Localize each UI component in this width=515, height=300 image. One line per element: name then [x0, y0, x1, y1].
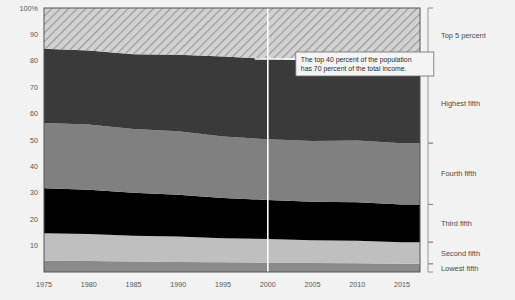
x-tick-label: 1990: [170, 280, 186, 289]
x-tick-label: 1980: [81, 280, 97, 289]
x-tick-label: 2005: [305, 280, 321, 289]
legend-label-lowest-fifth: Lowest fifth: [441, 264, 478, 273]
chart-canvas: 102030405060708090100% 19751980198519901…: [0, 0, 515, 300]
legend-label-second-fifth: Second fifth: [441, 249, 480, 258]
income-distribution-area-chart: 102030405060708090100% 19751980198519901…: [0, 0, 515, 300]
y-tick-label: 60: [30, 109, 38, 118]
annotation-callout: The top 40 percent of the populationhas …: [296, 52, 434, 76]
y-tick-label: 30: [30, 188, 38, 197]
callout-line-1: The top 40 percent of the population: [301, 56, 412, 64]
x-axis-tick-labels: 197519801985199019952000200520102015: [36, 280, 410, 289]
x-tick-label: 2010: [349, 280, 365, 289]
y-tick-label: 40: [30, 162, 38, 171]
y-tick-label: 90: [30, 30, 38, 39]
y-tick-label: 100%: [20, 4, 39, 13]
legend-label-third-fifth: Third fifth: [441, 219, 472, 228]
legend-label-highest-fifth: Highest fifth: [441, 99, 480, 108]
legend-label-fourth-fifth: Fourth fifth: [441, 169, 476, 178]
x-tick-label: 1995: [215, 280, 231, 289]
y-tick-label: 70: [30, 83, 38, 92]
y-tick-label: 50: [30, 136, 38, 145]
stacked-area-bands: [44, 8, 420, 272]
x-tick-label: 1975: [36, 280, 52, 289]
legend-label-top-5-percent: Top 5 percent: [441, 31, 486, 40]
callout-line-2: has 70 percent of the total income.: [301, 65, 407, 73]
y-tick-label: 20: [30, 215, 38, 224]
y-tick-label: 10: [30, 241, 38, 250]
y-tick-label: 80: [30, 56, 38, 65]
x-tick-label: 1985: [126, 280, 142, 289]
x-tick-label: 2000: [260, 280, 276, 289]
x-tick-label: 2015: [394, 280, 410, 289]
